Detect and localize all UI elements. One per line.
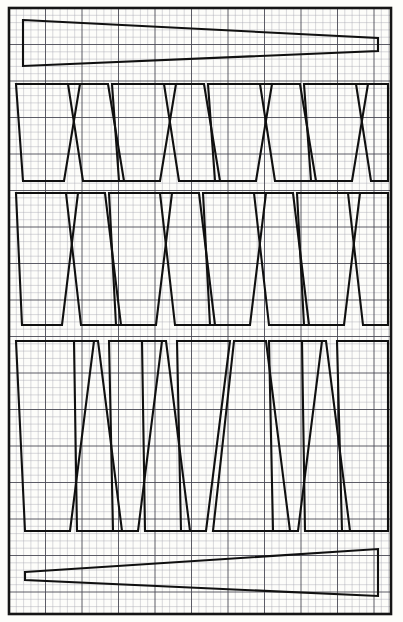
pattern-drawing-canvas [0, 0, 403, 622]
pattern-layout-svg [0, 0, 403, 622]
